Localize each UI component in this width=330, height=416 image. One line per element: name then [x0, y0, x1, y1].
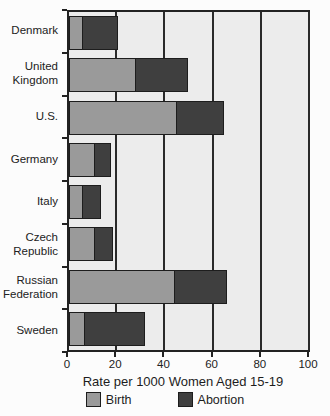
bar-row	[69, 12, 310, 54]
x-tick-mark	[259, 352, 261, 357]
x-tick-mark	[114, 352, 116, 357]
x-tick-label: 80	[253, 358, 266, 370]
x-tick-label: 0	[64, 358, 70, 370]
birth-segment	[69, 270, 175, 304]
abortion-swatch	[178, 392, 193, 407]
category-label: Italy	[0, 181, 62, 224]
birth-segment	[69, 58, 136, 92]
abortion-segment	[135, 58, 188, 92]
category-label: Russian Federation	[0, 267, 62, 310]
category-axis: DenmarkUnited KingdomU.S.GermanyItalyCze…	[0, 10, 62, 352]
category-label: U.S.	[0, 96, 62, 139]
abortion-segment	[176, 101, 224, 135]
y-tick-mark	[62, 137, 67, 139]
legend-item-abortion: Abortion	[178, 392, 245, 407]
stacked-bar	[69, 227, 310, 261]
y-tick-mark	[62, 308, 67, 310]
category-label: Germany	[0, 138, 62, 181]
x-tick-label: 100	[298, 358, 317, 370]
x-tick-label: 20	[109, 358, 122, 370]
legend-birth-label: Birth	[106, 393, 132, 407]
stacked-bar	[69, 312, 310, 346]
birth-segment	[69, 227, 96, 261]
x-tick-mark	[162, 352, 164, 357]
y-tick-mark	[62, 180, 67, 182]
y-tick-mark	[62, 223, 67, 225]
birth-segment	[69, 143, 96, 177]
bar-row	[69, 266, 310, 308]
x-tick-label: 60	[205, 358, 218, 370]
x-tick-label: 40	[157, 358, 170, 370]
x-tick-mark	[211, 352, 213, 357]
stacked-bar	[69, 270, 310, 304]
y-tick-mark	[62, 52, 67, 54]
bar-row	[69, 54, 310, 96]
y-tick-mark	[62, 266, 67, 268]
category-label: Denmark	[0, 10, 62, 53]
x-tick-mark	[307, 352, 309, 357]
bar-row	[69, 181, 310, 223]
plot-area	[67, 10, 310, 352]
bar-row	[69, 139, 310, 181]
abortion-segment	[84, 312, 144, 346]
legend: Birth Abortion	[0, 392, 330, 407]
bar-row	[69, 308, 310, 350]
abortion-segment	[82, 185, 101, 219]
stacked-bar	[69, 101, 310, 135]
birth-swatch	[86, 392, 101, 407]
stacked-bar	[69, 185, 310, 219]
bar-row	[69, 223, 310, 265]
abortion-segment	[174, 270, 227, 304]
stacked-bar	[69, 58, 310, 92]
birth-segment	[69, 312, 86, 346]
abortion-segment	[94, 227, 113, 261]
birth-segment	[69, 101, 177, 135]
abortion-segment	[82, 16, 118, 50]
category-label: Sweden	[0, 309, 62, 352]
y-tick-mark	[62, 351, 67, 353]
y-tick-mark	[62, 95, 67, 97]
category-label: Czech Republic	[0, 224, 62, 267]
x-axis-title: Rate per 1000 Women Aged 15-19	[58, 374, 308, 389]
bar-row	[69, 97, 310, 139]
bar-rows	[69, 12, 310, 350]
legend-abortion-label: Abortion	[198, 393, 245, 407]
legend-item-birth: Birth	[86, 392, 132, 407]
category-label: United Kingdom	[0, 53, 62, 96]
y-tick-mark	[62, 9, 67, 11]
stacked-bar-chart: DenmarkUnited KingdomU.S.GermanyItalyCze…	[0, 0, 330, 416]
abortion-segment	[94, 143, 111, 177]
stacked-bar	[69, 16, 310, 50]
stacked-bar	[69, 143, 310, 177]
